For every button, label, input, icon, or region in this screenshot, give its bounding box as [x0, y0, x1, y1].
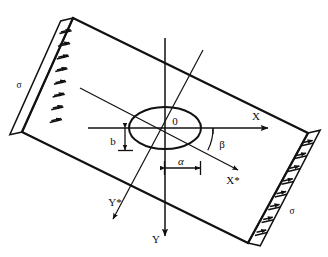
label-sigma-left: σ — [16, 80, 21, 90]
angle-beta-arc — [208, 128, 213, 150]
label-axis-x: X — [252, 110, 260, 122]
label-axis-y: Y — [152, 233, 160, 245]
label-origin: 0 — [172, 115, 178, 127]
figure-root: σ σ 0 X Y X* Y* β α b — [0, 0, 328, 257]
axis-x-star — [80, 88, 238, 170]
traction-arrows-right — [257, 140, 313, 232]
hatch-group-right — [248, 130, 320, 246]
hatch-box-right — [248, 130, 320, 246]
axis-y-star — [113, 50, 203, 219]
label-sigma-right: σ — [289, 206, 294, 216]
label-dimension-b: b — [110, 135, 116, 147]
label-axis-x-star: X* — [226, 174, 239, 186]
label-axis-y-star: Y* — [108, 196, 121, 208]
diagram-canvas: σ σ 0 X Y X* Y* β α b — [0, 0, 328, 257]
label-dimension-a: α — [178, 155, 184, 167]
hatch-box-left — [10, 18, 73, 135]
hatch-group-left — [10, 18, 73, 135]
dimension-b — [118, 128, 133, 151]
label-angle-beta: β — [219, 138, 225, 150]
hatch-rungs-right — [255, 143, 314, 235]
